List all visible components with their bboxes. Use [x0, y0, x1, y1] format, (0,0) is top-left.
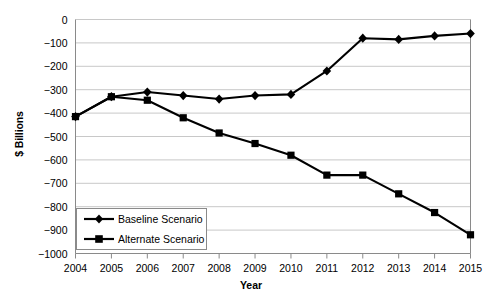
- y-axis-tick-label: −400: [0, 107, 68, 119]
- x-axis-tick-label: 2013: [387, 262, 410, 274]
- legend-item-alternate: Alternate Scenario: [77, 229, 206, 249]
- y-axis-tick-label: −900: [0, 224, 68, 236]
- legend-label-baseline: Baseline Scenario: [118, 213, 203, 225]
- series-lines: [76, 34, 471, 235]
- x-axis-tick-label: 2004: [64, 262, 87, 274]
- x-axis-tick-label: 2009: [243, 262, 266, 274]
- legend-marker-square-icon: [82, 232, 116, 246]
- y-axis-tick-label: −700: [0, 177, 68, 189]
- x-axis-tick-label: 2007: [172, 262, 195, 274]
- x-axis-tick-label: 2005: [100, 262, 123, 274]
- chart-legend: Baseline Scenario Alternate Scenario: [76, 208, 207, 250]
- x-axis-title: Year: [0, 279, 502, 291]
- x-axis-tick-label: 2015: [459, 262, 482, 274]
- y-axis-tick-label: −500: [0, 131, 68, 143]
- x-axis-tick-label: 2014: [423, 262, 446, 274]
- x-axis-tick-label: 2008: [207, 262, 230, 274]
- y-axis-tick-label: −1000: [0, 248, 68, 260]
- chart-plot-area: [0, 0, 502, 303]
- x-axis-tick-label: 2006: [136, 262, 159, 274]
- x-axis-tick-label: 2012: [351, 262, 374, 274]
- x-axis-tick-label: 2010: [279, 262, 302, 274]
- y-axis-tick-label: 0: [0, 14, 68, 26]
- y-axis-tick-label: −800: [0, 201, 68, 213]
- chart-container: 0−100−200−300−400−500−600−700−800−900−10…: [0, 0, 502, 303]
- legend-item-baseline: Baseline Scenario: [77, 209, 206, 229]
- y-axis-tick-label: −200: [0, 60, 68, 72]
- y-axis-tick-label: −600: [0, 154, 68, 166]
- y-axis-tick-label: −100: [0, 37, 68, 49]
- legend-marker-diamond-icon: [82, 212, 116, 226]
- y-axis-title: $ Billions: [13, 94, 25, 174]
- y-axis-tick-label: −300: [0, 84, 68, 96]
- legend-label-alternate: Alternate Scenario: [118, 233, 204, 245]
- x-axis-tick-label: 2011: [316, 262, 339, 274]
- x-axis-ticks: [76, 254, 471, 259]
